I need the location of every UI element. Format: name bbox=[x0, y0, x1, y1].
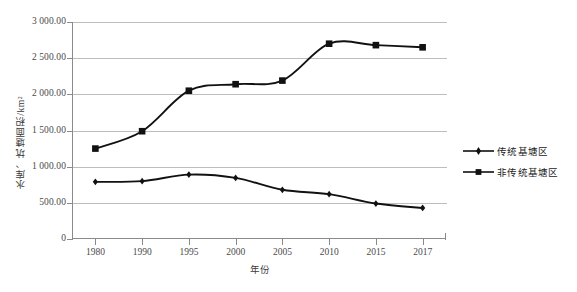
legend-label-traditional: 传统基塘区 bbox=[497, 144, 549, 158]
data-point-square bbox=[279, 77, 286, 84]
x-axis-tick-label: 2017 bbox=[398, 247, 448, 257]
x-axis-tick-label: 2010 bbox=[304, 247, 354, 257]
diamond-marker-icon bbox=[462, 144, 495, 158]
y-axis-tick bbox=[67, 167, 73, 168]
x-axis-tick bbox=[95, 239, 96, 245]
y-axis-tick bbox=[67, 94, 73, 95]
x-axis-tick bbox=[189, 239, 190, 245]
data-point-diamond bbox=[280, 186, 285, 193]
y-axis-tick bbox=[67, 131, 73, 132]
data-point-diamond bbox=[420, 205, 425, 212]
data-point-diamond bbox=[140, 178, 145, 185]
x-axis-tick-label: 1990 bbox=[117, 247, 167, 257]
series-nontraditional bbox=[92, 40, 426, 151]
chart-legend: 传统基塘区 非传统基塘区 bbox=[462, 140, 574, 182]
x-axis-tick bbox=[329, 239, 330, 245]
legend-item-traditional[interactable]: 传统基塘区 bbox=[462, 140, 574, 161]
data-point-diamond bbox=[373, 200, 378, 207]
x-axis-tick bbox=[423, 239, 424, 245]
legend-item-nontraditional[interactable]: 非传统基塘区 bbox=[462, 161, 574, 182]
x-axis-title: 年份 bbox=[0, 262, 520, 276]
legend-label-nontraditional: 非传统基塘区 bbox=[497, 165, 559, 179]
data-point-square bbox=[326, 40, 333, 47]
x-axis-tick-label: 2005 bbox=[257, 247, 307, 257]
y-axis-tick bbox=[67, 203, 73, 204]
x-axis-tick-label: 2000 bbox=[211, 247, 261, 257]
x-axis-tick-label: 2015 bbox=[351, 247, 401, 257]
series-line bbox=[95, 174, 422, 207]
data-point-square bbox=[139, 128, 146, 135]
x-axis-tick bbox=[236, 239, 237, 245]
data-point-diamond bbox=[327, 191, 332, 198]
chart-container: 0500.001 000.001 500.002 000.002 500.003… bbox=[0, 0, 577, 292]
data-point-diamond bbox=[233, 174, 238, 181]
x-axis-tick-label: 1995 bbox=[164, 247, 214, 257]
y-axis-tick bbox=[67, 22, 73, 23]
x-axis-tick bbox=[142, 239, 143, 245]
square-marker-icon bbox=[462, 165, 495, 179]
data-point-square bbox=[186, 87, 193, 94]
data-point-diamond bbox=[93, 178, 98, 185]
data-point-square bbox=[373, 42, 380, 49]
data-point-square bbox=[232, 81, 239, 88]
x-axis-tick-label: 1980 bbox=[70, 247, 120, 257]
data-point-diamond bbox=[186, 171, 191, 178]
data-point-square bbox=[92, 145, 99, 152]
y-axis-tick bbox=[67, 58, 73, 59]
y-axis-tick bbox=[67, 239, 73, 240]
x-axis-tick bbox=[376, 239, 377, 245]
data-point-square bbox=[419, 44, 426, 51]
series-traditional bbox=[93, 171, 425, 211]
x-axis-tick bbox=[282, 239, 283, 245]
